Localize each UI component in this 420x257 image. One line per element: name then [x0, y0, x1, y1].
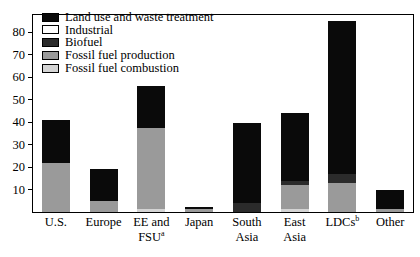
legend-item: Industrial: [42, 24, 252, 36]
x-axis-label: SouthAsia: [223, 215, 271, 245]
bar: [42, 120, 70, 212]
bar-segment: [281, 209, 309, 212]
bar-segment: [281, 185, 309, 209]
y-axis-tick-label: 60: [13, 70, 26, 84]
legend-item: Land use and waste treatment: [42, 11, 252, 23]
y-axis-tick-label: 20: [13, 160, 26, 174]
x-axis-label-line: U.S.: [32, 215, 80, 230]
x-axis-label: Japan: [175, 215, 223, 230]
bar: [233, 123, 261, 212]
x-axis-label-line: Asia: [271, 230, 319, 245]
legend-swatch-icon: [42, 51, 59, 60]
x-axis-label-line: LDCsb: [319, 215, 367, 230]
x-axis-label-line: EE and: [128, 215, 176, 230]
legend-swatch-icon: [42, 25, 59, 34]
bar-segment: [90, 169, 118, 201]
y-axis-tick-label: 50: [13, 93, 26, 107]
y-axis-tick-label: 40: [13, 115, 26, 129]
x-axis-label: Europe: [80, 215, 128, 230]
bar-segment: [376, 190, 404, 209]
x-axis-label: LDCsb: [319, 215, 367, 230]
legend-item: Biofuel: [42, 37, 252, 49]
legend-item-label: Fossil fuel production: [65, 49, 175, 62]
legend-item: Fossil fuel production: [42, 49, 252, 61]
bar-segment: [90, 201, 118, 212]
legend-item-label: Biofuel: [65, 36, 103, 49]
bar-segment: [137, 128, 165, 209]
x-axis-label-footnote: b: [355, 214, 359, 223]
legend-swatch-icon: [42, 13, 59, 22]
x-axis-label-line: Europe: [80, 215, 128, 230]
bar-segment: [185, 209, 213, 212]
bar-segment: [281, 113, 309, 181]
y-axis: 1020304050607080: [0, 0, 34, 257]
bar: [281, 113, 309, 212]
x-axis-label: U.S.: [32, 215, 80, 230]
legend-item: Fossil fuel combustion: [42, 62, 252, 74]
y-axis-tick-label: 80: [13, 25, 26, 39]
bar-segment: [233, 123, 261, 203]
x-axis-label: Other: [366, 215, 414, 230]
x-axis-label-line: Japan: [175, 215, 223, 230]
y-axis-tick-label: 70: [13, 48, 26, 62]
bar-segment: [328, 183, 356, 212]
legend-swatch-icon: [42, 38, 59, 47]
x-axis-label-footnote: a: [161, 229, 165, 238]
y-axis-tick-label: 30: [13, 138, 26, 152]
x-axis-label: EE andFSUa: [128, 215, 176, 245]
x-axis-label-line: South: [223, 215, 271, 230]
x-axis-label-line: FSUa: [128, 230, 176, 245]
bar-segment: [137, 86, 165, 128]
bar: [185, 207, 213, 212]
legend-item-label: Industrial: [65, 24, 113, 37]
bar-segment: [376, 209, 404, 212]
bar-segment: [233, 203, 261, 212]
chart-legend: Land use and waste treatmentIndustrialBi…: [42, 11, 252, 75]
y-axis-tick-label: 10: [13, 183, 26, 197]
bar: [90, 169, 118, 212]
bar-segment: [42, 120, 70, 163]
bar-segment: [328, 21, 356, 174]
bar: [137, 86, 165, 212]
bar-segment: [328, 174, 356, 183]
x-axis-label: EastAsia: [271, 215, 319, 245]
x-axis-label-line: East: [271, 215, 319, 230]
legend-item-label: Fossil fuel combustion: [65, 62, 179, 75]
chart-figure: 1020304050607080 U.S.EuropeEE andFSUaJap…: [0, 0, 420, 257]
legend-item-label: Land use and waste treatment: [65, 11, 214, 24]
x-axis-label-line: Asia: [223, 230, 271, 245]
x-axis-label-line: Other: [366, 215, 414, 230]
x-axis: U.S.EuropeEE andFSUaJapanSouthAsiaEastAs…: [32, 215, 414, 257]
bar: [328, 21, 356, 212]
legend-swatch-icon: [42, 64, 59, 73]
bar: [376, 190, 404, 213]
bar-segment: [137, 209, 165, 212]
bar-segment: [42, 163, 70, 213]
